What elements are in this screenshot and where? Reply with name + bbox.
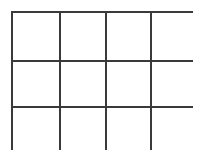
grid-cell-r3c1[interactable] [13, 108, 59, 152]
grid-cell-r1c3[interactable] [107, 13, 150, 60]
grid-cell-r3c2[interactable] [61, 108, 105, 152]
figure-canvas [0, 0, 202, 162]
grid-cell-r2c2[interactable] [61, 62, 105, 106]
grid-cell-r1c4[interactable] [152, 13, 195, 60]
grid-table [11, 11, 193, 150]
grid-cell-r3c3[interactable] [107, 108, 150, 152]
grid-cell-r1c1[interactable] [13, 13, 59, 60]
grid-cell-r2c1[interactable] [13, 62, 59, 106]
grid-cell-r1c2[interactable] [61, 13, 105, 60]
grid-cell-r2c4[interactable] [152, 62, 195, 106]
grid-cell-r3c4[interactable] [152, 108, 195, 152]
grid-cell-r2c3[interactable] [107, 62, 150, 106]
